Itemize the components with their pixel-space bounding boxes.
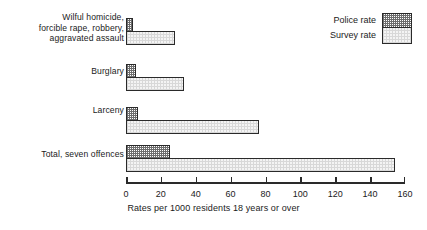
- x-tick-0: [126, 177, 128, 182]
- x-tick-60: [231, 177, 233, 182]
- x-tick-label-120: 120: [328, 189, 343, 199]
- x-tick-160: [404, 177, 406, 182]
- x-tick-label-60: 60: [226, 189, 236, 199]
- legend-swatch-survey-rate: [382, 28, 412, 44]
- x-tick-label-40: 40: [191, 189, 201, 199]
- legend-swatch-police-rate: [382, 13, 412, 28]
- bar-total-police-rate: [126, 145, 170, 159]
- bar-chart: Wilful homicide, forcible rape, robbery,…: [0, 0, 427, 230]
- x-axis: 020406080100120140160: [126, 182, 405, 184]
- x-tick-label-140: 140: [363, 189, 378, 199]
- legend-item-survey-rate: Survey rate: [306, 28, 412, 44]
- x-tick-label-100: 100: [293, 189, 308, 199]
- legend-label-police-rate: Police rate: [333, 15, 376, 25]
- x-tick-label-20: 20: [156, 189, 166, 199]
- x-axis-label: Rates per 1000 residents 18 years or ove…: [0, 203, 427, 213]
- x-tick-label-80: 80: [260, 189, 270, 199]
- bar-larceny-police-rate: [126, 107, 138, 121]
- bar-total-survey-rate: [126, 158, 395, 172]
- x-tick-80: [266, 177, 268, 182]
- bar-larceny-survey-rate: [126, 120, 259, 134]
- x-tick-label-160: 160: [397, 189, 412, 199]
- category-label-burglary: Burglary: [91, 66, 124, 77]
- bar-burglary-survey-rate: [126, 77, 184, 91]
- x-tick-40: [196, 177, 198, 182]
- x-tick-label-0: 0: [123, 189, 128, 199]
- x-tick-100: [300, 177, 302, 182]
- category-label-violent-crime: Wilful homicide, forcible rape, robbery,…: [39, 12, 124, 44]
- category-label-larceny: Larceny: [93, 105, 124, 116]
- bar-burglary-police-rate: [126, 64, 136, 78]
- x-tick-20: [161, 177, 163, 182]
- x-tick-120: [335, 177, 337, 182]
- legend-item-police-rate: Police rate: [306, 13, 412, 29]
- legend-label-survey-rate: Survey rate: [330, 30, 376, 40]
- x-tick-140: [370, 177, 372, 182]
- bar-violent-crime-survey-rate: [126, 31, 175, 45]
- category-label-total: Total, seven offences: [41, 149, 124, 160]
- bar-violent-crime-police-rate: [126, 18, 133, 32]
- legend: Police rate Survey rate: [306, 13, 412, 46]
